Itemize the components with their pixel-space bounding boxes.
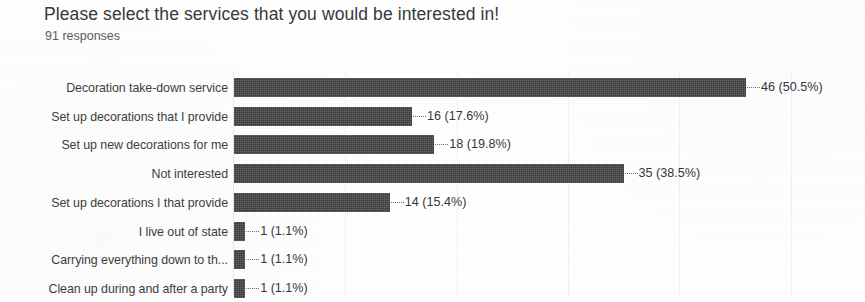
response-count: 91 responses [45,29,120,43]
leader-line [246,231,259,233]
bar-row: I live out of state1 (1.1%) [0,219,865,248]
category-label: Clean up during and after a party [48,282,228,296]
bar-row: Set up decorations that I provide16 (17.… [0,104,865,133]
bar[interactable] [234,135,434,154]
bar[interactable] [234,222,245,241]
bar-row: Not interested35 (38.5%) [0,161,865,190]
bar-row: Carrying everything down to th...1 (1.1%… [0,247,865,276]
bar-row: Clean up during and after a party1 (1.1%… [0,276,865,302]
category-label: Set up decorations I that provide [51,196,228,210]
bar-row: Set up decorations I that provide14 (15.… [0,190,865,219]
leader-line [413,116,426,118]
bar-row: Decoration take-down service46 (50.5%) [0,75,865,104]
page-title: Please select the services that you woul… [44,4,499,25]
bar-value-label: 1 (1.1%) [260,252,308,266]
leader-line [246,288,259,290]
bar-value-label: 35 (38.5%) [639,166,701,180]
bar-value-label: 1 (1.1%) [260,224,308,238]
category-label: Set up new decorations for me [61,138,228,152]
leader-line [747,87,760,89]
bar-value-label: 14 (15.4%) [405,195,467,209]
bar-chart-plot-area: Decoration take-down service46 (50.5%)Se… [0,62,865,296]
bar[interactable] [234,78,746,97]
leader-line [625,173,638,175]
bar-row: Set up new decorations for me18 (19.8%) [0,132,865,161]
category-label: Not interested [152,167,228,181]
category-label: Set up decorations that I provide [51,110,228,124]
leader-line [391,202,404,204]
bar[interactable] [234,250,245,269]
bar[interactable] [234,164,624,183]
category-label: Decoration take-down service [66,81,228,95]
bar-value-label: 16 (17.6%) [427,109,489,123]
leader-line [435,144,448,146]
bar-value-label: 1 (1.1%) [260,281,308,295]
bar[interactable] [234,107,412,126]
category-label: I live out of state [139,225,228,239]
bar-value-label: 46 (50.5%) [761,80,823,94]
bar[interactable] [234,193,390,212]
leader-line [246,259,259,261]
category-label: Carrying everything down to th... [51,253,228,267]
bar[interactable] [234,279,245,298]
bar-value-label: 18 (19.8%) [449,137,511,151]
